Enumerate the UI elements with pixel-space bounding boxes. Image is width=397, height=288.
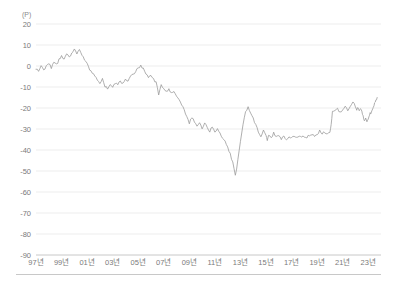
x-axis-tick-label: 23년: [361, 257, 376, 267]
x-axis-tick-label: 13년: [233, 257, 248, 267]
x-axis-tick-label: 17년: [284, 257, 299, 267]
x-axis-tick-label: 15년: [258, 257, 273, 267]
x-axis-tick-label: 99년: [54, 257, 69, 267]
x-axis-tick-label: 97년: [28, 257, 43, 267]
chart-background: [0, 0, 397, 288]
y-axis-tick-label: -20: [20, 104, 31, 113]
line-chart: 20100-10-20-30-40-50-60-70-80-90 97년99년0…: [0, 0, 397, 288]
x-axis-tick-label: 07년: [156, 257, 171, 267]
x-axis-tick-label: 11년: [207, 257, 222, 267]
x-axis-tick-label: 05년: [131, 257, 146, 267]
y-axis-tick-label: -30: [20, 125, 31, 134]
x-axis-tick-label: 03년: [105, 257, 120, 267]
y-axis-tick-label: 10: [23, 41, 31, 50]
y-axis-tick-label: -80: [20, 230, 31, 239]
y-axis-tick-label: -70: [20, 209, 31, 218]
y-axis-tick-label: 20: [23, 20, 31, 29]
x-axis-tick-label: 19년: [309, 257, 324, 267]
y-axis-tick-label: -50: [20, 167, 31, 176]
y-axis-tick-label: -40: [20, 146, 31, 155]
y-axis-tick-label: -60: [20, 188, 31, 197]
x-axis-tick-label: 09년: [182, 257, 197, 267]
y-axis-tick-label: -10: [20, 83, 31, 92]
x-axis-tick-label: 21년: [335, 257, 350, 267]
chart-figure: 20100-10-20-30-40-50-60-70-80-90 97년99년0…: [0, 0, 397, 288]
y-axis-tick-label: 0: [27, 62, 31, 71]
y-axis-unit-label: (P): [22, 11, 31, 19]
x-axis-tick-label: 01년: [79, 257, 94, 267]
